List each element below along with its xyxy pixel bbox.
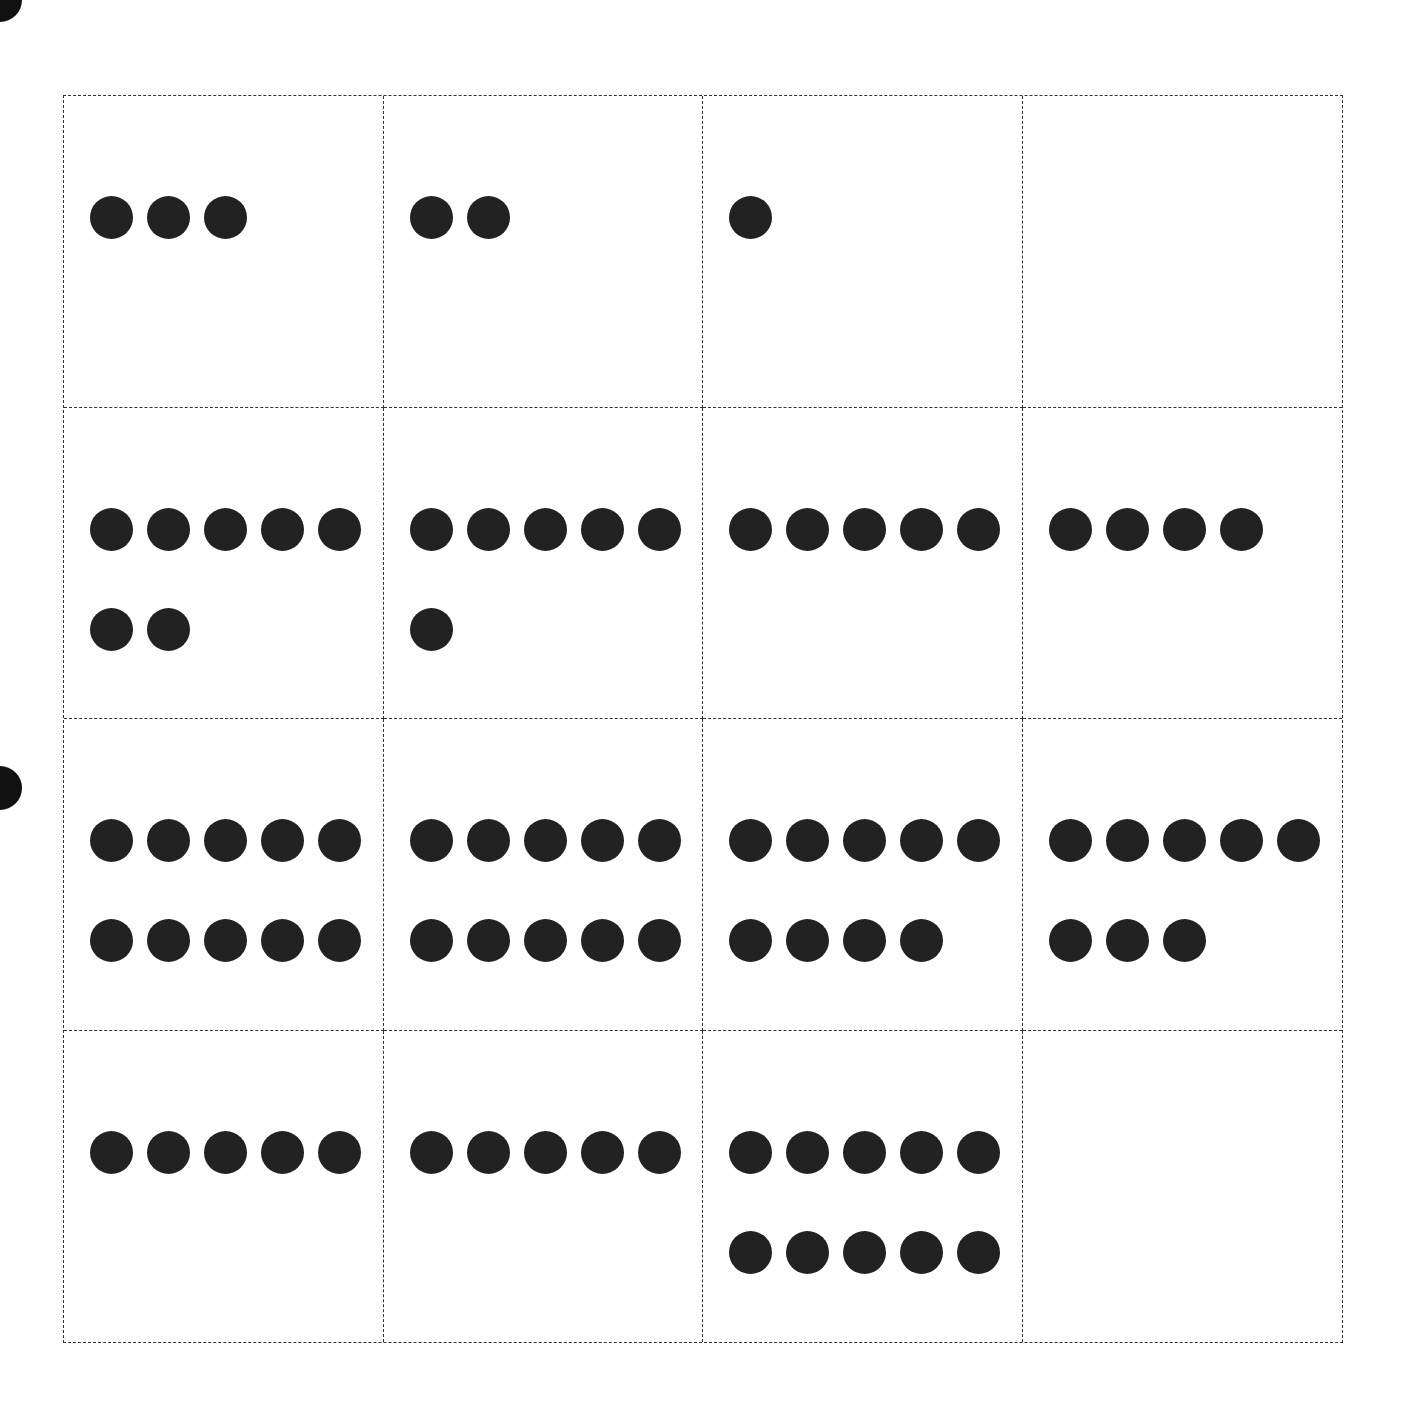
dot-icon [581, 919, 624, 962]
dot-row [1049, 819, 1343, 863]
dot-icon [318, 819, 361, 862]
dot-icon [843, 1231, 886, 1274]
dot-row [90, 196, 383, 240]
dot-icon [729, 508, 772, 551]
dot-icon [90, 819, 133, 862]
dot-row [410, 608, 703, 652]
dot-icon [467, 196, 510, 239]
dot-row [729, 1131, 1022, 1175]
dot-row [90, 508, 383, 552]
dot-row [410, 508, 703, 552]
dot-icon [1220, 819, 1263, 862]
dot-icon [1163, 919, 1206, 962]
dot-icon [410, 196, 453, 239]
dot-icon [900, 819, 943, 862]
dot-row [729, 508, 1022, 552]
dot-row [410, 919, 703, 963]
dot-icon [90, 608, 133, 651]
dot-row [729, 919, 1022, 963]
dot-card [384, 1031, 704, 1343]
dot-icon [90, 196, 133, 239]
dot-icon [729, 919, 772, 962]
dot-icon [467, 819, 510, 862]
dot-icon [957, 819, 1000, 862]
dot-card [1023, 408, 1343, 720]
dot-icon [638, 1131, 681, 1174]
dot-icon [729, 819, 772, 862]
dot-icon [524, 819, 567, 862]
dot-icon [90, 919, 133, 962]
dot-icon [843, 819, 886, 862]
dot-icon [900, 919, 943, 962]
dot-icon [410, 1131, 453, 1174]
dot-icon [318, 919, 361, 962]
dot-icon [581, 508, 624, 551]
dot-row [410, 196, 703, 240]
dot-icon [638, 819, 681, 862]
dot-icon [204, 1131, 247, 1174]
dot-icon [524, 1131, 567, 1174]
dot-icon [204, 819, 247, 862]
dot-icon [410, 508, 453, 551]
dot-icon [1106, 508, 1149, 551]
dot-icon [410, 819, 453, 862]
dot-icon [147, 1131, 190, 1174]
dot-icon [410, 608, 453, 651]
dot-icon [843, 1131, 886, 1174]
dot-icon [1106, 919, 1149, 962]
dot-card [384, 408, 704, 720]
dot-icon [786, 1131, 829, 1174]
dot-card [1023, 719, 1343, 1031]
dot-icon [318, 508, 361, 551]
dot-icon [261, 819, 304, 862]
dot-icon [1277, 819, 1320, 862]
dot-icon [1106, 819, 1149, 862]
dot-row [729, 1231, 1022, 1275]
dot-row [1049, 508, 1343, 552]
dot-icon [524, 508, 567, 551]
dot-row [410, 819, 703, 863]
dot-icon [147, 608, 190, 651]
dot-icon [786, 819, 829, 862]
dot-icon [467, 919, 510, 962]
dot-icon [204, 196, 247, 239]
dot-icon [638, 508, 681, 551]
dot-icon [261, 508, 304, 551]
dot-card [703, 719, 1023, 1031]
dot-icon [1049, 508, 1092, 551]
dot-icon [318, 1131, 361, 1174]
dot-card [703, 1031, 1023, 1343]
dot-icon [843, 508, 886, 551]
dot-icon [90, 1131, 133, 1174]
dot-card [1023, 96, 1343, 408]
dot-icon [204, 508, 247, 551]
dot-icon [786, 1231, 829, 1274]
dot-icon [410, 919, 453, 962]
dot-icon [1220, 508, 1263, 551]
dot-card [64, 96, 384, 408]
dot-icon [204, 919, 247, 962]
dot-icon [147, 919, 190, 962]
dot-icon [147, 819, 190, 862]
dot-card [64, 408, 384, 720]
dot-row [90, 819, 383, 863]
dot-card [64, 719, 384, 1031]
dot-icon [147, 196, 190, 239]
dot-icon [729, 196, 772, 239]
dot-row [90, 919, 383, 963]
dot-icon [900, 1131, 943, 1174]
dot-card [64, 1031, 384, 1343]
dot-card [703, 96, 1023, 408]
dot-icon [638, 919, 681, 962]
dot-icon [900, 1231, 943, 1274]
dot-icon [261, 919, 304, 962]
dot-row [729, 819, 1022, 863]
dot-card [384, 719, 704, 1031]
dot-icon [1049, 919, 1092, 962]
dot-card [384, 96, 704, 408]
dot-row [1049, 919, 1343, 963]
punch-hole-middle [0, 766, 22, 810]
dot-icon [786, 508, 829, 551]
dot-icon [729, 1131, 772, 1174]
dot-card [703, 408, 1023, 720]
